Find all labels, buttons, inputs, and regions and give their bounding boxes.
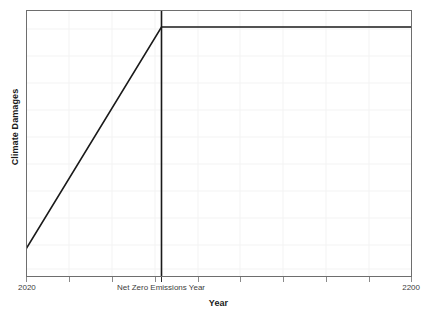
- x-tick-label-2020: 2020: [18, 283, 36, 293]
- climate-damages-line: [26, 27, 412, 249]
- x-tick-2180: [369, 277, 370, 282]
- x-axis-title-text: Year: [209, 298, 228, 308]
- x-tick-net-zero: [161, 277, 162, 282]
- x-tick-2100: [198, 277, 199, 282]
- x-tick-2020: [26, 277, 27, 282]
- x-tick-label-net-zero-emissions-year: Net Zero Emissions Year: [117, 283, 205, 293]
- plot-area: [26, 10, 412, 277]
- x-tick-2140: [283, 277, 284, 282]
- x-tick-2200: [411, 277, 412, 282]
- x-tick-label-2200: 2200: [402, 283, 420, 293]
- y-axis-title: Climate Damages: [10, 62, 20, 192]
- x-tick-2080: [155, 277, 156, 282]
- x-tick-2160: [326, 277, 327, 282]
- x-axis-ticks: [26, 277, 412, 282]
- x-tick-2060: [112, 277, 113, 282]
- x-axis-title: Year: [0, 298, 429, 308]
- data-series-layer: [26, 10, 412, 277]
- x-tick-2040: [69, 277, 70, 282]
- x-tick-2120: [240, 277, 241, 282]
- climate-damages-chart: 2020 Net Zero Emissions Year 2200 Year C…: [0, 0, 429, 319]
